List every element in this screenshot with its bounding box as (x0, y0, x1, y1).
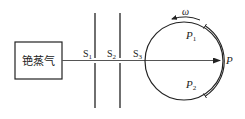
omega-label: ω (182, 6, 189, 17)
slit-label-s3: S3 (133, 48, 143, 61)
slit-label-s2: S2 (107, 48, 117, 61)
slit-label-s1: S1 (83, 48, 93, 61)
point-label-p: P (225, 54, 233, 66)
point-label-p2: P2 (185, 78, 197, 92)
apparatus-diagram: 铯蒸气 S1 S2 S3 ω P1 P2 P (0, 0, 245, 119)
cesium-vapor-source: 铯蒸气 (15, 42, 62, 79)
rotation-arrow-icon (172, 17, 200, 20)
source-label: 铯蒸气 (22, 54, 55, 68)
diagram-canvas: 铯蒸气 S1 S2 S3 ω P1 P2 P (0, 0, 245, 119)
point-label-p1: P1 (185, 29, 197, 43)
